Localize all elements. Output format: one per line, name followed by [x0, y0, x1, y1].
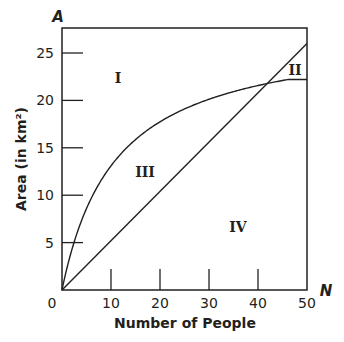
x-tick-label: 10 — [102, 295, 120, 311]
y-tick-label: 5 — [45, 235, 54, 251]
y-tick-label: 20 — [36, 92, 54, 108]
y-tick-label: 15 — [36, 140, 54, 156]
y-tick-label: 25 — [36, 45, 54, 61]
region-label-ii: II — [288, 62, 301, 78]
linear-line — [62, 44, 307, 291]
region-label-iii: III — [135, 164, 155, 180]
plot-frame — [62, 28, 307, 290]
x-tick-label: 40 — [249, 295, 267, 311]
y-ticks — [62, 53, 83, 243]
x-axis-variable: N — [320, 282, 333, 300]
y-axis-title: Area (in km²) — [13, 107, 29, 211]
x-tick-label: 20 — [151, 295, 169, 311]
region-label-iv: IV — [229, 219, 248, 235]
y-tick-label: 10 — [36, 187, 54, 203]
saturating-curve — [62, 80, 307, 290]
chart: 5 10 15 20 25 0 10 20 30 40 50 A N Numbe… — [0, 0, 344, 342]
x-tick-label: 50 — [298, 295, 316, 311]
x-ticks — [111, 269, 258, 290]
origin-label: 0 — [48, 295, 57, 311]
x-tick-label: 30 — [200, 295, 218, 311]
x-axis-title: Number of People — [114, 315, 256, 331]
y-axis-variable: A — [51, 8, 64, 26]
region-label-i: I — [115, 70, 122, 86]
